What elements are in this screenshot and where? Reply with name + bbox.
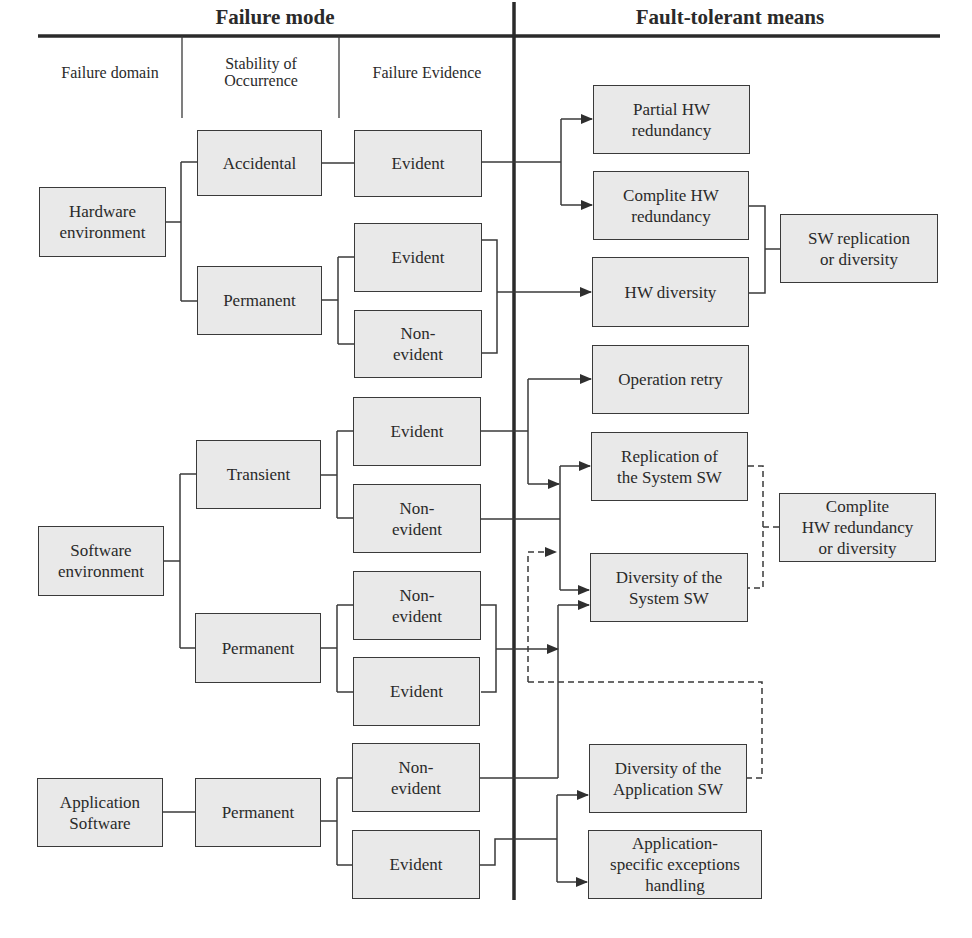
software-environment-box: Software environment [38,526,164,596]
sw-transient-evident-box: Evident [353,397,481,466]
app-nonevident-box: Non- evident [352,743,480,812]
partial-hw-redundancy-box: Partial HW redundancy [593,85,750,154]
sw-permanent-box: Permanent [195,613,321,683]
sw-replication-or-diversity-box: SW replication or diversity [780,214,938,283]
fault-tolerance-diagram: Failure mode Fault-tolerant means Failur… [0,0,972,938]
failure-domain-header: Failure domain [40,64,180,81]
diversity-application-sw-box: Diversity of the Application SW [589,744,747,813]
hw-permanent-nonevident-box: Non- evident [354,310,482,378]
replication-system-sw-box: Replication of the System SW [591,432,748,501]
hw-permanent-box: Permanent [197,266,322,335]
app-evident-box: Evident [352,830,480,899]
hw-accidental-box: Accidental [197,130,322,196]
fault-tolerant-means-heading: Fault-tolerant means [600,5,860,30]
diversity-system-sw-box: Diversity of the System SW [590,553,748,622]
app-specific-exceptions-box: Application- specific exceptions handlin… [588,830,762,899]
complite-hw-redundancy-box: Complite HW redundancy [593,171,749,240]
operation-retry-box: Operation retry [592,345,749,414]
complite-hw-redundancy-or-diversity-box: Complite HW redundancy or diversity [779,493,936,562]
hw-accidental-evident-box: Evident [354,130,482,197]
sw-transient-box: Transient [196,440,321,509]
sw-permanent-evident-box: Evident [353,657,480,726]
hardware-environment-box: Hardware environment [39,187,166,257]
stability-header: Stability of Occurrence [184,55,338,89]
failure-mode-heading: Failure mode [175,5,375,30]
hw-diversity-box: HW diversity [592,257,749,327]
sw-permanent-nonevident-box: Non- evident [353,571,481,640]
sw-transient-nonevident-box: Non- evident [353,484,481,553]
app-permanent-box: Permanent [195,778,321,847]
hw-permanent-evident-box: Evident [354,223,482,292]
application-software-box: Application Software [37,778,163,847]
evidence-header: Failure Evidence [341,64,513,81]
